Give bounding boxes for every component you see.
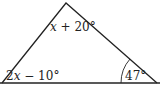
triangle-diagram: x + 20° 2x − 10° 47° — [0, 0, 161, 94]
top-angle-label: x + 20° — [50, 20, 96, 34]
right-angle-label: 47° — [125, 69, 146, 83]
left-angle-label: 2x − 10° — [6, 69, 59, 83]
